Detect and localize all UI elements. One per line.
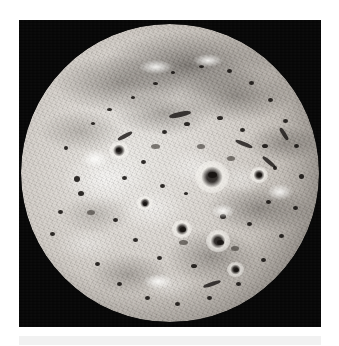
photo-frame <box>19 20 321 327</box>
page-root <box>0 0 339 346</box>
io-disc <box>21 24 319 322</box>
limb-darkening <box>21 24 319 322</box>
caption-strip <box>19 336 321 345</box>
